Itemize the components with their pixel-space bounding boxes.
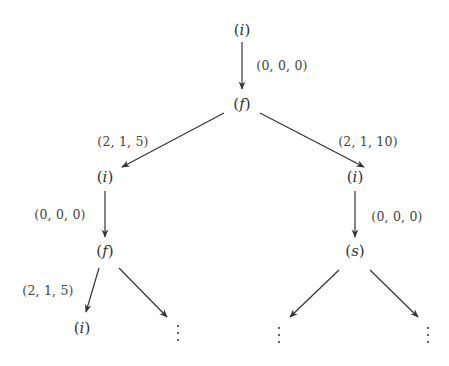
edge-label-f-to-bottom-i: (2, 1, 5) (22, 283, 73, 298)
node-i-right-level2: (i) (347, 168, 364, 186)
node-variable: i (80, 319, 85, 337)
node-variable: s (351, 242, 359, 260)
edge-f-to-continuation (119, 268, 167, 317)
node-root-i: (i) (234, 21, 251, 39)
edge-s-to-right-continuation (370, 270, 418, 317)
node-variable: f (102, 242, 108, 260)
node-i-left-level2: (i) (97, 168, 114, 186)
node-variable: f (239, 95, 245, 113)
node-f-left-level3: (f) (96, 242, 113, 260)
edge-label-root-to-f: (0, 0, 0) (256, 58, 307, 73)
tree-edges (0, 0, 449, 366)
node-s-right-level3: (s) (345, 242, 364, 260)
node-variable: i (103, 168, 108, 186)
node-f-level1: (f) (233, 95, 250, 113)
edge-f-to-bottom-i (86, 268, 99, 312)
edge-label-left-i-to-f: (0, 0, 0) (34, 207, 85, 222)
node-variable: i (240, 21, 245, 39)
edge-label-f-to-left-i: (2, 1, 5) (97, 134, 148, 149)
continuation-vdots-icon (176, 324, 180, 344)
continuation-vdots-icon (277, 326, 281, 346)
edge-label-f-to-right-i: (2, 1, 10) (338, 134, 397, 149)
continuation-vdots-icon (426, 326, 430, 346)
node-i-bottom-level4: (i) (74, 319, 91, 337)
edge-label-right-i-to-s: (0, 0, 0) (371, 209, 422, 224)
edge-s-to-left-continuation (290, 270, 339, 317)
node-variable: i (353, 168, 358, 186)
